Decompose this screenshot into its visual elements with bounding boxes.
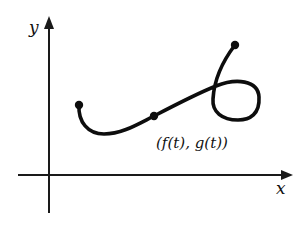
y-axis bbox=[44, 16, 54, 213]
curve-end-point bbox=[231, 41, 239, 49]
curve-current-point bbox=[150, 112, 158, 120]
y-axis-arrow-icon bbox=[44, 16, 54, 29]
curve-start-point bbox=[75, 101, 83, 109]
y-axis-label: y bbox=[28, 17, 39, 37]
parametric-curve bbox=[79, 45, 259, 134]
x-axis bbox=[18, 170, 293, 180]
x-axis-label: x bbox=[276, 178, 286, 198]
parametric-curve-diagram: y x (f(t), g(t)) bbox=[0, 0, 308, 227]
point-label: (f(t), g(t)) bbox=[156, 134, 228, 152]
